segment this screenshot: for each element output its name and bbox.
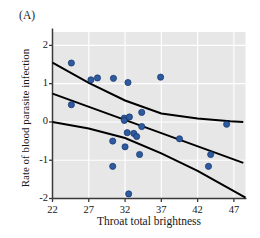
x-tick-label: 42 [185,204,211,215]
x-tick-label: 27 [76,204,102,215]
x-tick-label: 47 [221,204,247,215]
figure-panel-a: (A) Rate of blood parasite infection Thr… [0,0,260,238]
x-tick-label: 37 [148,204,174,215]
x-tick-label: 32 [112,204,138,215]
x-tick-label: 22 [40,204,66,215]
x-tick-labels: 222732374247 [0,0,260,238]
